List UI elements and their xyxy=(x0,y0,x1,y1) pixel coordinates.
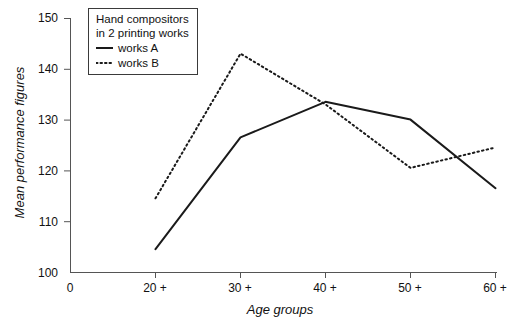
series-line-works-a xyxy=(156,102,496,249)
legend-label-works-b: works B xyxy=(118,56,159,70)
plot-area xyxy=(0,0,520,335)
legend-title-line-1: Hand compositors xyxy=(96,13,189,27)
legend-entry-works-b: works B xyxy=(96,56,189,70)
legend-entry-works-a: works A xyxy=(96,41,189,55)
legend: Hand compositors in 2 printing works wor… xyxy=(88,8,198,75)
legend-title-line-2: in 2 printing works xyxy=(96,27,189,41)
series-line-works-b xyxy=(156,54,496,199)
line-chart: Mean performance figures 150 140 130 120… xyxy=(0,0,520,335)
dotted-line-icon xyxy=(96,58,113,68)
solid-line-icon xyxy=(96,43,113,53)
legend-label-works-a: works A xyxy=(118,41,158,55)
